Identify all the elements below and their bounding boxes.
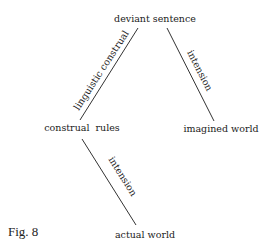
node-deviant-sentence: deviant sentence <box>114 13 196 24</box>
edge-label-intension-right: intension <box>185 48 215 93</box>
node-imagined-world: imagined world <box>183 123 258 134</box>
diagram: deviant sentence construal rules imagine… <box>0 0 268 252</box>
node-construal-rules: construal rules <box>44 122 120 133</box>
edge-linguistic-construal <box>80 28 138 120</box>
figure-label: Fig. 8 <box>8 224 38 239</box>
edge-label-intension-lower: intension <box>107 154 140 198</box>
edge-label-linguistic-construal: linguistic construal <box>71 28 131 112</box>
diagram-canvas: deviant sentence construal rules imagine… <box>0 0 268 252</box>
node-actual-world: actual world <box>115 229 175 240</box>
